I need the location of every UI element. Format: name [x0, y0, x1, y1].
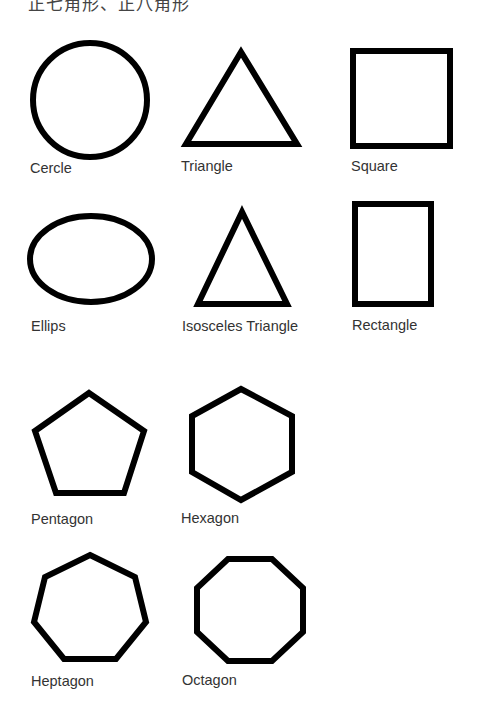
- ellipse-shape: [30, 216, 152, 302]
- label-pentagon: Pentagon: [31, 511, 93, 527]
- circle-shape: [33, 43, 147, 157]
- triangle-shape: [186, 52, 297, 144]
- hexagon-shape: [192, 389, 292, 500]
- label-square: Square: [351, 158, 398, 174]
- square-shape: [353, 51, 450, 146]
- pentagon-shape: [35, 393, 144, 493]
- shapes-canvas: [0, 0, 484, 718]
- label-hexagon: Hexagon: [181, 510, 239, 526]
- label-triangle: Triangle: [181, 158, 233, 174]
- octagon-shape: [197, 559, 303, 661]
- rectangle-shape: [355, 204, 431, 304]
- label-ellipse: Ellips: [31, 318, 66, 334]
- label-octagon: Octagon: [182, 672, 237, 688]
- heptagon-shape: [34, 555, 146, 659]
- label-cercle: Cercle: [30, 160, 72, 176]
- label-heptagon: Heptagon: [31, 673, 94, 689]
- label-rectangle: Rectangle: [352, 317, 417, 333]
- label-isosceles-triangle: Isosceles Triangle: [182, 318, 298, 334]
- isosceles-triangle-shape: [198, 212, 287, 304]
